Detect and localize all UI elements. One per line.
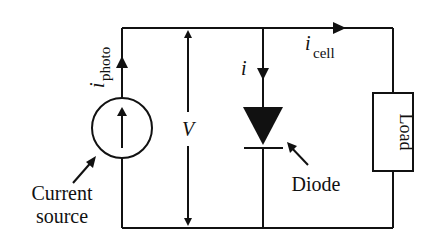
voltage-label: V <box>182 118 197 140</box>
voltage-arrowhead-up-icon <box>184 30 192 38</box>
voltage-arrowhead-down-icon <box>184 218 192 226</box>
current-source-label-line2: source <box>36 205 88 227</box>
svg-text:i: i <box>86 82 108 88</box>
i-photo-label: i photo <box>86 47 113 88</box>
current-source-inner-arrowhead-icon <box>117 107 127 116</box>
load-label: Load <box>396 114 416 151</box>
diode-label: Diode <box>292 173 341 195</box>
svg-text:photo: photo <box>97 47 113 81</box>
svg-text:cell: cell <box>313 45 335 61</box>
i-diode-label: i <box>241 57 247 79</box>
i-cell-arrowhead-icon <box>333 22 346 34</box>
i-cell-label: i cell <box>305 32 335 61</box>
circuit-diagram: i photo i i cell V Load Current source D… <box>0 0 436 247</box>
i-photo-arrowhead-icon <box>116 56 128 68</box>
svg-text:i: i <box>305 32 311 54</box>
i-diode-arrowhead-icon <box>257 68 269 80</box>
current-source-label-line1: Current <box>31 182 93 204</box>
diode-triangle-icon <box>243 107 283 145</box>
